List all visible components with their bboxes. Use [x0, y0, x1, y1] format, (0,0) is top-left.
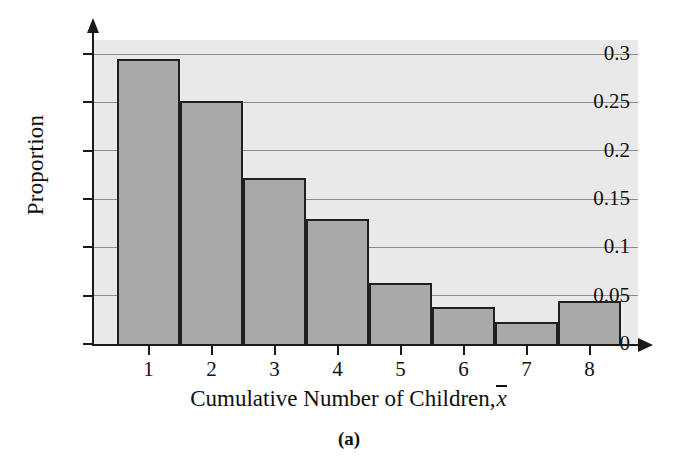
x-axis-tick: [211, 346, 213, 355]
x-axis-tick-label: 3: [245, 359, 305, 380]
bar[interactable]: [558, 301, 621, 346]
figure-subcaption: (a): [0, 428, 698, 450]
bar[interactable]: [243, 178, 306, 346]
bar[interactable]: [180, 101, 243, 346]
x-axis-title: Cumulative Number of Children,x: [0, 386, 698, 412]
x-axis-tick: [589, 346, 591, 355]
x-axis-tick: [463, 346, 465, 355]
x-axis-tick-label: 7: [497, 359, 557, 380]
x-axis-arrow-icon: [638, 338, 653, 352]
x-axis-tick: [148, 346, 150, 355]
x-axis-tick-label: 2: [182, 359, 242, 380]
x-axis-line: [92, 344, 640, 346]
y-axis-tick-label: 0.2: [570, 140, 630, 161]
bar[interactable]: [495, 322, 558, 346]
bar[interactable]: [432, 307, 495, 346]
x-axis-tick-label: 6: [434, 359, 494, 380]
bar[interactable]: [117, 59, 180, 346]
x-axis-tick: [337, 346, 339, 355]
gridline: [94, 54, 638, 55]
x-axis-tick-label: 8: [560, 359, 620, 380]
y-axis-tick-label: 0.25: [570, 91, 630, 112]
x-bar-symbol: x: [496, 386, 508, 411]
x-axis-title-text: Cumulative Number of Children,: [190, 386, 495, 411]
y-axis-line: [92, 22, 94, 346]
plot-area: 00.050.10.150.20.250.3 12345678: [92, 14, 648, 346]
x-axis-tick: [274, 346, 276, 355]
y-axis-tick-label: 0.1: [570, 236, 630, 257]
x-axis-tick: [400, 346, 402, 355]
bar[interactable]: [369, 283, 432, 346]
bar[interactable]: [306, 219, 369, 346]
x-axis-tick: [526, 346, 528, 355]
x-axis-tick-label: 5: [371, 359, 431, 380]
x-axis-tick-label: 1: [119, 359, 179, 380]
y-axis-tick-label: 0.3: [570, 43, 630, 64]
y-axis-title: Proportion: [23, 65, 49, 265]
y-axis-tick-label: 0.15: [570, 188, 630, 209]
y-axis-arrow-icon: [87, 18, 99, 33]
figure-container: Proportion 00.050.10.150.20.250.3 123456…: [0, 0, 698, 464]
x-axis-tick-label: 4: [308, 359, 368, 380]
